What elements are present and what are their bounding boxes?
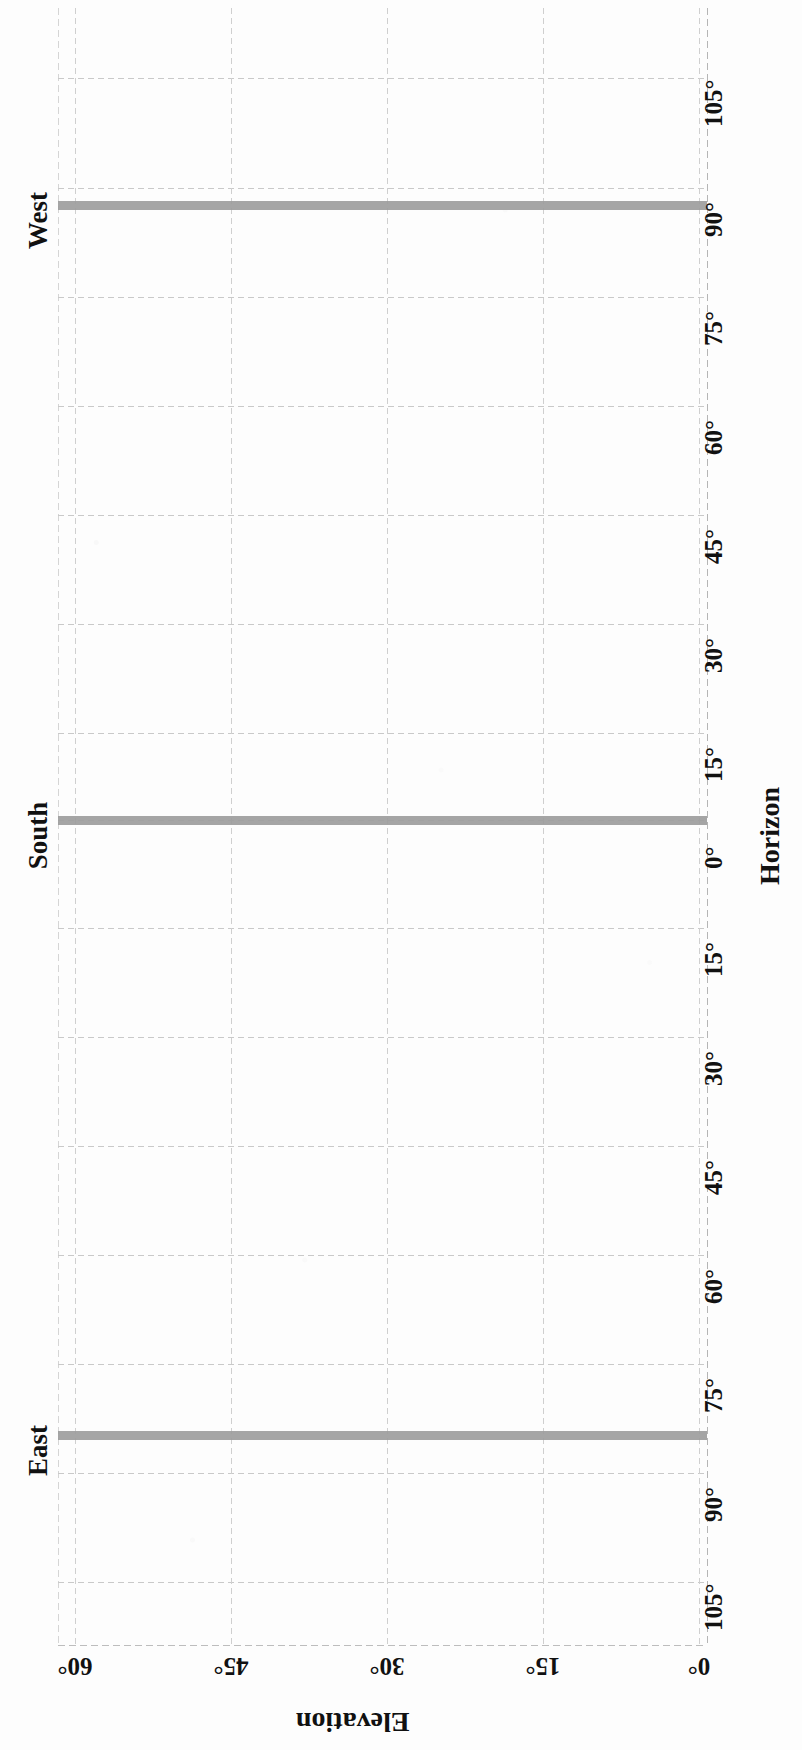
elevation-tick-label-3: 15° <box>513 1652 573 1680</box>
gridline-azimuth-14 <box>58 1582 707 1583</box>
direction-label-east: East <box>23 1425 54 1476</box>
azimuth-tick-label-2: 75° <box>700 276 728 346</box>
elevation-axis-title: Elevation <box>296 1706 410 1738</box>
plot-area <box>58 8 707 1645</box>
west-bar <box>58 201 707 210</box>
azimuth-tick-label-14: 105° <box>700 1561 728 1631</box>
gridline-azimuth-5 <box>58 624 707 625</box>
gridline-azimuth-0 <box>58 78 707 79</box>
gridline-azimuth-3 <box>58 406 707 407</box>
gridline-azimuth-2 <box>58 297 707 298</box>
azimuth-tick-label-10: 45° <box>700 1125 728 1195</box>
gridline-azimuth-12 <box>58 1364 707 1365</box>
east-bar <box>58 1431 707 1440</box>
azimuth-tick-label-7: 0° <box>700 799 728 869</box>
azimuth-tick-label-6: 15° <box>700 712 728 782</box>
horizon-axis-title: Horizon <box>754 787 786 885</box>
azimuth-tick-label-13: 90° <box>700 1452 728 1522</box>
elevation-tick-label-1: 45° <box>201 1652 261 1680</box>
gridline-azimuth-4 <box>58 515 707 516</box>
azimuth-tick-label-1: 90° <box>700 167 728 237</box>
axis-line-left <box>58 8 59 1645</box>
elevation-tick-label-4: 0° <box>669 1652 729 1680</box>
axis-line-bottom <box>58 1645 707 1646</box>
azimuth-tick-label-4: 45° <box>700 494 728 564</box>
azimuth-tick-label-5: 30° <box>700 603 728 673</box>
gridline-azimuth-9 <box>58 1037 707 1038</box>
azimuth-tick-label-9: 30° <box>700 1016 728 1086</box>
gridline-elevation-0 <box>75 8 76 1645</box>
south-bar <box>58 816 707 825</box>
gridline-azimuth-10 <box>58 1146 707 1147</box>
gridline-elevation-3 <box>543 8 544 1645</box>
gridline-azimuth-8 <box>58 928 707 929</box>
gridline-elevation-1 <box>231 8 232 1645</box>
gridline-azimuth-13 <box>58 1473 707 1474</box>
azimuth-tick-label-12: 75° <box>700 1343 728 1413</box>
azimuth-tick-label-8: 15° <box>700 907 728 977</box>
gridline-azimuth-11 <box>58 1255 707 1256</box>
gridline-azimuth-6 <box>58 733 707 734</box>
elevation-tick-label-0: 60° <box>45 1652 105 1680</box>
azimuth-tick-label-11: 60° <box>700 1234 728 1304</box>
azimuth-tick-label-3: 60° <box>700 385 728 455</box>
direction-label-west: West <box>23 192 54 249</box>
direction-label-south: South <box>23 802 54 870</box>
azimuth-tick-label-0: 105° <box>700 57 728 127</box>
chart-page: 105°90°75°60°45°30°15°0°15°30°45°60°75°9… <box>0 0 802 1750</box>
gridline-azimuth-1 <box>58 188 707 189</box>
elevation-tick-label-2: 30° <box>357 1652 417 1680</box>
gridline-elevation-2 <box>387 8 388 1645</box>
